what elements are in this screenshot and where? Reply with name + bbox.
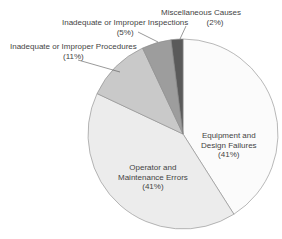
label-misc-name: Miscellaneous Causes — [161, 8, 241, 18]
label-inspections-name: Inadequate or Improper Inspections — [62, 18, 188, 28]
label-operator-pct: (41%) — [118, 182, 188, 192]
label-operator-line2: Maintenance Errors — [118, 173, 188, 183]
label-procedures-name: Inadequate or Improper Procedures — [10, 42, 137, 52]
label-operator: Operator and Maintenance Errors (41%) — [118, 163, 188, 192]
label-procedures-pct: (11%) — [10, 52, 137, 62]
label-equipment-line2: Design Failures — [201, 141, 257, 151]
label-equipment: Equipment and Design Failures (41%) — [201, 131, 257, 160]
label-operator-line1: Operator and — [118, 163, 188, 173]
label-inspections-pct: (5%) — [62, 28, 188, 38]
leader-line-procedures — [78, 60, 120, 72]
label-procedures: Inadequate or Improper Procedures (11%) — [10, 42, 137, 61]
label-inspections: Inadequate or Improper Inspections (5%) — [62, 18, 188, 37]
label-equipment-line1: Equipment and — [201, 131, 257, 141]
label-equipment-pct: (41%) — [201, 150, 257, 160]
